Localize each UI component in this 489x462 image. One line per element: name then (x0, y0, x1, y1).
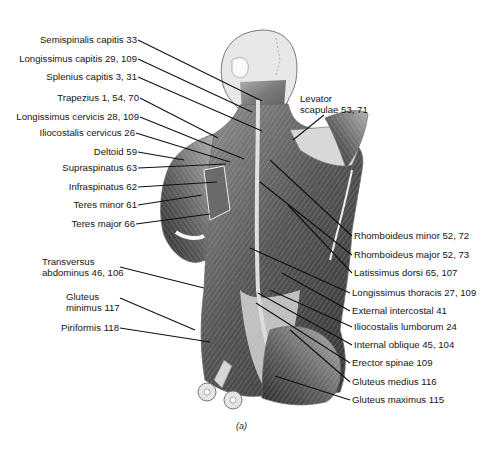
label-gluteus-medius: Gluteus medius 116 (352, 376, 437, 387)
label-internal-oblique: Internal oblique 45, 104 (354, 339, 454, 350)
label-longissimus-cervicis: Longissimus cervicis 28, 109 (16, 111, 139, 122)
label-gluteus-minimus: Gluteus minimus 117 (66, 291, 120, 313)
label-semispinalis-capitis: Semispinalis capitis 33 (40, 34, 137, 45)
label-line: Gluteus (66, 291, 120, 302)
label-teres-minor: Teres minor 61 (74, 199, 137, 210)
label-gluteus-maximus: Gluteus maximus 115 (352, 394, 444, 405)
label-levator-scapulae: Levator scapulae 53, 71 (300, 93, 368, 115)
label-splenius-capitis: Splenius capitis 3, 31 (46, 71, 137, 82)
label-rhomboideus-minor: Rhomboideus minor 52, 72 (354, 230, 469, 241)
label-supraspinatus: Supraspinatus 63 (62, 162, 137, 173)
label-line: scapulae 53, 71 (300, 104, 368, 115)
label-teres-major: Teres major 66 (72, 218, 135, 229)
label-piriformis: Piriformis 118 (61, 322, 119, 333)
label-iliocostalis-lumborum: Iliocostalis lumborum 24 (354, 321, 457, 332)
label-line: abdominus 46, 106 (42, 267, 124, 278)
label-longissimus-thoracis: Longissimus thoracis 27, 109 (352, 287, 476, 298)
label-longissimus-capitis: Longissimus capitis 29, 109 (19, 53, 137, 64)
label-deltoid: Deltoid 59 (94, 146, 137, 157)
label-line: minimus 117 (66, 302, 120, 313)
muscle-diagram: Semispinalis capitis 33 Longissimus capi… (0, 0, 489, 462)
label-latissimus-dorsi: Latissimus dorsi 65, 107 (354, 267, 457, 278)
label-line: Transversus (42, 256, 124, 267)
figure-caption: (a) (236, 421, 247, 431)
label-iliocostalis-cervicus: Iliocostalis cervicus 26 (40, 127, 135, 138)
label-line: Levator (300, 93, 368, 104)
label-erector-spinae: Erector spinae 109 (352, 357, 433, 368)
head-skull (221, 30, 297, 110)
label-infraspinatus: Infraspinatus 62 (69, 181, 137, 192)
label-trapezius: Trapezius 1, 54, 70 (57, 92, 139, 103)
label-external-intercostal: External intercostal 41 (352, 305, 447, 316)
label-rhomboideus-major: Rhomboideus major 52, 73 (354, 249, 469, 260)
label-transversus-abdominus: Transversus abdominus 46, 106 (42, 256, 124, 278)
